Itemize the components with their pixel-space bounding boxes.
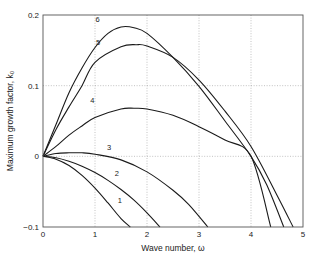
curve-label-4: 4	[90, 96, 94, 105]
y-tick-label: 0.2	[28, 11, 40, 20]
x-tick-label: 5	[301, 230, 306, 239]
x-tick-label: 2	[145, 230, 150, 239]
x-axis-label: Wave number, ω	[141, 243, 205, 253]
curve-label-1: 1	[118, 196, 122, 205]
curve-6	[43, 27, 284, 227]
curve-label-3: 3	[107, 143, 111, 152]
plot-frame	[43, 15, 303, 227]
curve-label-6: 6	[96, 15, 100, 24]
curve-5	[43, 45, 293, 227]
curve-label-5: 5	[96, 38, 100, 47]
x-tick-label: 1	[93, 230, 98, 239]
curve-3	[43, 153, 208, 227]
curves	[43, 27, 293, 227]
curve-label-2: 2	[115, 169, 119, 178]
growth-factor-chart: 123456 012345 −0.100.10.2 Wave number, ω…	[0, 0, 316, 261]
y-tick-label: 0.1	[28, 82, 40, 91]
y-tick-label: 0	[35, 152, 40, 161]
y-tick-labels: −0.100.10.2	[23, 11, 39, 232]
x-tick-label: 4	[249, 230, 254, 239]
curve-1	[43, 156, 130, 227]
x-tick-label: 3	[197, 230, 202, 239]
y-axis-label: Maximum growth factor, k₀	[5, 70, 15, 171]
grid-lines	[43, 15, 303, 227]
x-tick-labels: 012345	[41, 230, 306, 239]
curve-2	[43, 156, 160, 227]
x-tick-label: 0	[41, 230, 46, 239]
y-tick-label: −0.1	[23, 223, 39, 232]
